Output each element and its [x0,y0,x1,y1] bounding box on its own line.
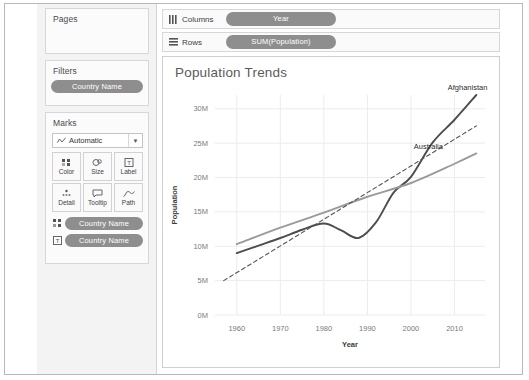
marks-pill-country-name-color[interactable]: Country Name [65,217,143,230]
path-line-icon [57,137,66,144]
rows-shelf[interactable]: Rows SUM(Population) [162,32,500,52]
x-axis-tick-label: 1980 [316,324,333,333]
marks-button-detail[interactable]: Detail [52,183,81,212]
size-circles-icon [92,158,103,167]
chart-panel: Population Trends 0M5M10M15M20M25M30M196… [162,56,500,368]
series-annotation-afghanistan: Afghanistan [448,83,488,92]
marks-card-title: Marks [46,113,148,128]
marks-button-label-label: Label [121,168,137,175]
mark-type-dropdown[interactable]: Automatic ▼ [52,133,143,148]
mark-type-value: Automatic [69,136,102,145]
marks-button-label[interactable]: T Label [114,152,143,181]
detail-dots-icon [61,189,72,198]
marks-button-color[interactable]: Color [52,152,81,181]
marks-button-size-label: Size [91,168,104,175]
marks-button-size[interactable]: Size [83,152,112,181]
columns-shelf[interactable]: Columns Year [162,9,500,29]
filter-pill-country-name[interactable]: Country Name [51,80,143,93]
y-axis-tick-label: 20M [193,173,208,182]
columns-pill-year[interactable]: Year [226,12,336,26]
columns-icon [169,15,178,24]
marks-button-tooltip-label: Tooltip [88,199,107,206]
marks-card: Marks Automatic ▼ [45,112,149,264]
sidebar: Pages Filters Country Name Marks Automat… [37,4,157,374]
path-line-icon [123,190,135,198]
y-axis-tick-label: 25M [193,139,208,148]
pages-card-title: Pages [46,9,148,24]
color-squares-icon [52,219,62,228]
marks-button-path[interactable]: Path [114,183,143,212]
population-trends-line-chart: 0M5M10M15M20M25M30M196019701980199020002… [163,57,499,367]
pages-card: Pages [45,8,149,54]
svg-text:T: T [127,160,131,166]
y-axis-tick-label: 30M [193,104,208,113]
rows-pill-sum-population[interactable]: SUM(Population) [226,35,336,49]
label-text-icon: T [52,236,62,245]
rows-icon [169,38,178,47]
series-annotation-australia: Australia [414,142,444,151]
filters-card-title: Filters [46,61,148,76]
marks-button-tooltip[interactable]: Tooltip [83,183,112,212]
x-axis-title: Year [342,340,358,349]
marks-button-path-label: Path [122,199,135,206]
rows-shelf-label: Rows [182,38,226,47]
x-axis-tick-label: 1970 [272,324,289,333]
y-axis-tick-label: 0M [198,311,208,320]
filters-card: Filters Country Name [45,60,149,106]
y-axis-tick-label: 5M [198,276,208,285]
columns-shelf-label: Columns [182,15,226,24]
marks-pill-row-color: Country Name [52,217,143,230]
label-text-icon: T [124,158,134,167]
tooltip-bubble-icon [92,189,103,198]
y-axis-tick-label: 10M [193,242,208,251]
color-squares-icon [61,158,72,167]
chevron-down-icon[interactable]: ▼ [128,134,142,147]
y-axis-tick-label: 15M [193,207,208,216]
marks-button-color-label: Color [59,168,75,175]
x-axis-tick-label: 2000 [403,324,420,333]
marks-pill-row-label: T Country Name [52,234,143,247]
tableau-window: Pages Filters Country Name Marks Automat… [4,3,523,375]
series-line-afghanistan [237,95,477,253]
marks-pill-country-name-label[interactable]: Country Name [65,234,143,247]
svg-text:T: T [55,238,59,244]
marks-button-detail-label: Detail [58,199,75,206]
x-axis-tick-label: 1990 [359,324,376,333]
x-axis-tick-label: 2010 [446,324,463,333]
y-axis-title: Population [170,185,179,224]
x-axis-tick-label: 1960 [228,324,245,333]
